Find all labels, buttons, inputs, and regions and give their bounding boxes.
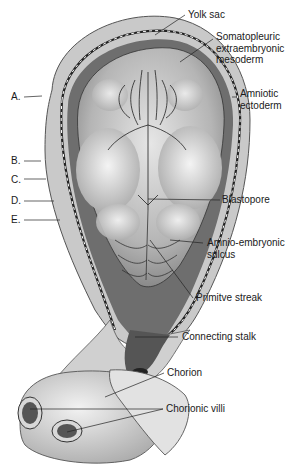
left-neural-bulge [76, 128, 140, 212]
label-chorion: Chorion [167, 367, 202, 379]
label-chorionic-villi: Chorionic villi [166, 403, 225, 415]
chorionic-villus-right [52, 420, 82, 442]
label-connecting-stalk: Connecting stalk [182, 331, 256, 343]
label-a: A. [11, 91, 20, 103]
label-d: D. [11, 195, 21, 207]
label-primitive-streak: Primitve streak [196, 292, 262, 304]
label-amniotic-ectoderm: Amniotic ectoderm [240, 88, 282, 111]
label-amnio-embryonic-sulcus: Amnio-embryonic sulcus [207, 237, 285, 260]
label-c: C. [11, 174, 21, 186]
embryo-diagram [0, 0, 303, 465]
label-yolk-sac: Yolk sac [188, 9, 225, 21]
label-e: E. [11, 214, 20, 226]
label-somatopleuric-mesoderm: Somatopleuric extraembryonic mesoderm [216, 31, 284, 66]
chorionic-villus-left [18, 397, 42, 429]
label-blastopore: Blastopore [222, 194, 270, 206]
right-neural-bulge [158, 126, 222, 210]
label-b: B. [11, 155, 20, 167]
